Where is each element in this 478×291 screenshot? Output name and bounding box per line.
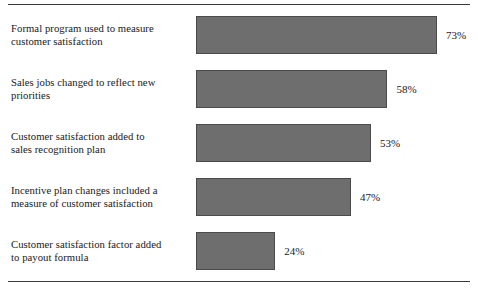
category-label-line2: priorities (11, 89, 50, 101)
bar (196, 70, 387, 108)
category-label-line2: measure of customer satisfaction (11, 197, 153, 209)
top-rule (8, 4, 470, 5)
category-label-line2: sales recognition plan (11, 143, 105, 155)
bar (196, 16, 437, 54)
bar-track: 73% (196, 16, 437, 54)
bar (196, 178, 351, 216)
bar-track: 58% (196, 70, 387, 108)
category-label: Sales jobs changed to reflect new priori… (11, 76, 189, 103)
bar-value-label: 47% (351, 191, 380, 203)
category-label-line2: customer satisfaction (11, 35, 103, 47)
bar (196, 124, 371, 162)
category-label: Customer satisfaction added to sales rec… (11, 130, 189, 157)
bar-chart-figure: Formal program used to measure customer … (0, 0, 478, 291)
bottom-rule (8, 281, 470, 282)
bar-track: 53% (196, 124, 371, 162)
category-label-line1: Customer satisfaction factor added (11, 238, 161, 250)
chart-row: Formal program used to measure customer … (0, 8, 478, 62)
bar-track: 47% (196, 178, 351, 216)
chart-row: Sales jobs changed to reflect new priori… (0, 62, 478, 116)
category-label: Customer satisfaction factor added to pa… (11, 238, 189, 265)
plot-area: Formal program used to measure customer … (0, 8, 478, 280)
category-label-line1: Customer satisfaction added to (11, 130, 145, 142)
bar-value-label: 73% (437, 29, 466, 41)
category-label-line1: Sales jobs changed to reflect new (11, 76, 155, 88)
category-label-line1: Formal program used to measure (11, 22, 154, 34)
chart-row: Customer satisfaction factor added to pa… (0, 224, 478, 278)
bar-value-label: 53% (371, 137, 400, 149)
chart-row: Incentive plan changes included a measur… (0, 170, 478, 224)
chart-row: Customer satisfaction added to sales rec… (0, 116, 478, 170)
category-label: Formal program used to measure customer … (11, 22, 189, 49)
bar (196, 232, 275, 270)
category-label-line2: to payout formula (11, 251, 88, 263)
bar-value-label: 24% (275, 245, 304, 257)
category-label-line1: Incentive plan changes included a (11, 184, 157, 196)
bar-value-label: 58% (387, 83, 416, 95)
bar-track: 24% (196, 232, 275, 270)
category-label: Incentive plan changes included a measur… (11, 184, 189, 211)
